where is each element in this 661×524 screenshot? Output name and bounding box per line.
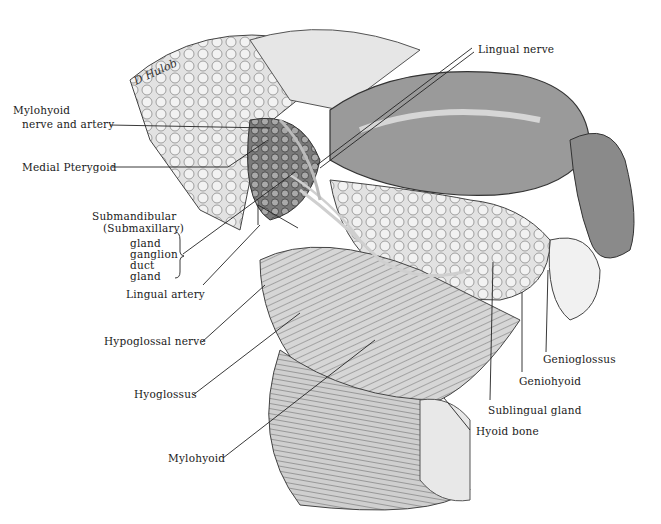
label-hypoglossal-nerve: Hypoglossal nerve [104,335,206,347]
label-mylohyoid: Mylohyoid [168,452,225,464]
tongue [330,72,590,196]
hyoid [420,399,470,501]
label-lingual-artery: Lingual artery [126,288,205,300]
label-submandibular: Submandibular [92,210,176,222]
label-sublingual-gland: Sublingual gland [488,404,582,416]
label-sub-gland2: gland [130,270,161,282]
label-mylohyoid-nerve-line2: nerve and artery [22,118,114,130]
label-hyoglossus: Hyoglossus [134,388,197,400]
label-submaxillary: (Submaxillary) [103,222,184,234]
tongue-tip [570,133,634,258]
label-hyoid-bone: Hyoid bone [476,425,539,437]
label-geniohyoid: Geniohyoid [519,375,581,387]
chin-bone [549,238,600,320]
label-lingual-nerve: Lingual nerve [478,43,554,55]
label-medial-pterygoid: Medial Pterygoid [22,161,117,173]
label-mylohyoid-nerve-line1: Mylohyoid [13,104,70,116]
label-genioglossus: Genioglossus [543,353,616,365]
anatomy-illustration: D Hulob [0,0,661,524]
